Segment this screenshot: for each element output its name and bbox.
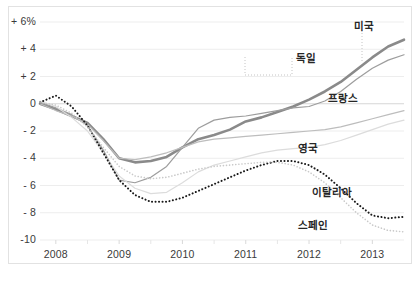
series-label: 스페인 <box>298 217 328 232</box>
y-tick-label: + 6% <box>2 15 36 27</box>
x-tick-label: 2010 <box>162 248 202 260</box>
line-chart-plot <box>0 0 420 287</box>
series-line <box>40 101 404 194</box>
series-label: 프랑스 <box>328 90 358 105</box>
y-tick-label: + 2 <box>2 70 36 82</box>
series-lines <box>40 40 404 232</box>
series-label: 독일 <box>296 50 316 65</box>
y-tick-label: - 2 <box>2 124 36 136</box>
series-label: 미국 <box>354 18 374 33</box>
series-label: 이탈리아 <box>312 184 352 199</box>
x-tick-label: 2009 <box>99 248 139 260</box>
y-tick-label: - 6 <box>2 179 36 191</box>
y-tick-label: -10 <box>2 233 36 245</box>
y-tick-label: + 4 <box>2 42 36 54</box>
series-line <box>40 96 404 219</box>
y-tick-label: - 8 <box>2 206 36 218</box>
x-tick-label: 2011 <box>226 248 266 260</box>
x-tick-label: 2008 <box>36 248 76 260</box>
x-tick-marks <box>56 240 373 244</box>
y-tick-label: - 4 <box>2 151 36 163</box>
y-tick-label: 0 <box>2 97 36 109</box>
x-tick-label: 2013 <box>352 248 392 260</box>
x-tick-label: 2012 <box>289 248 329 260</box>
series-label: 영국 <box>298 140 318 155</box>
